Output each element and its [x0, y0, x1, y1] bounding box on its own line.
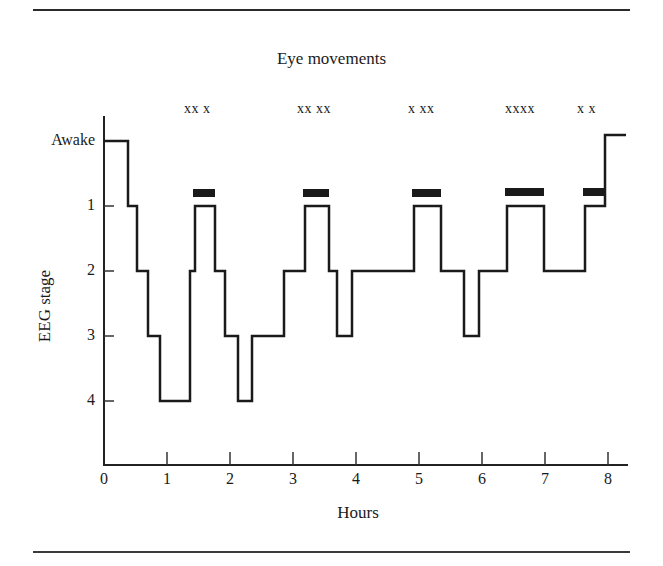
x-tick-label-0: 0: [94, 470, 114, 488]
y-tick-label-1: 1: [15, 196, 95, 214]
y-ticks: [104, 206, 114, 401]
x-axis-label: Hours: [318, 503, 398, 523]
bottom-rule: [33, 551, 630, 553]
x-tick-label-3: 3: [283, 470, 303, 488]
y-axis-label: EEG stage: [35, 266, 55, 346]
y-tick-label-2: 2: [15, 261, 95, 279]
y-tick-label-awake: Awake: [15, 131, 95, 149]
x-ticks: [167, 452, 608, 465]
x-tick-label-2: 2: [220, 470, 240, 488]
x-tick-label-4: 4: [346, 470, 366, 488]
x-tick-label-5: 5: [409, 470, 429, 488]
y-tick-label-4: 4: [15, 391, 95, 409]
hypnogram-trace: [104, 135, 626, 401]
rem-bars: [193, 188, 605, 197]
axes: [103, 116, 628, 465]
x-tick-label-7: 7: [535, 470, 555, 488]
x-tick-label-1: 1: [157, 470, 177, 488]
y-tick-label-3: 3: [15, 326, 95, 344]
x-tick-label-8: 8: [598, 470, 618, 488]
x-tick-label-6: 6: [472, 470, 492, 488]
